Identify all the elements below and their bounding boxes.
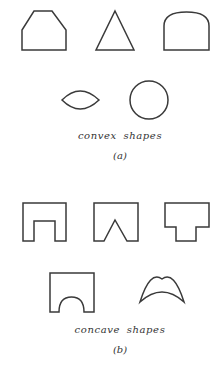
v-notch-shape [94, 203, 138, 241]
panel-label-b: (b) [0, 344, 220, 355]
panel-b-concave [23, 203, 209, 312]
lens-shape [62, 91, 99, 109]
triangle-shape [96, 11, 134, 50]
caption-concave-shapes: concave shapes [0, 324, 220, 335]
crescent-shape [140, 277, 184, 302]
square-notch-shape [23, 203, 66, 241]
t-shape [165, 203, 209, 241]
panel-label-a: (a) [0, 150, 220, 161]
circle-shape [130, 81, 168, 119]
caption-convex-shapes: convex shapes [0, 130, 220, 141]
arch-shape [164, 12, 209, 50]
truncated-pentagon-shape [22, 11, 66, 50]
arch-cutout-shape [50, 273, 94, 312]
shapes-figure [0, 0, 220, 377]
panel-a-convex [22, 11, 209, 119]
